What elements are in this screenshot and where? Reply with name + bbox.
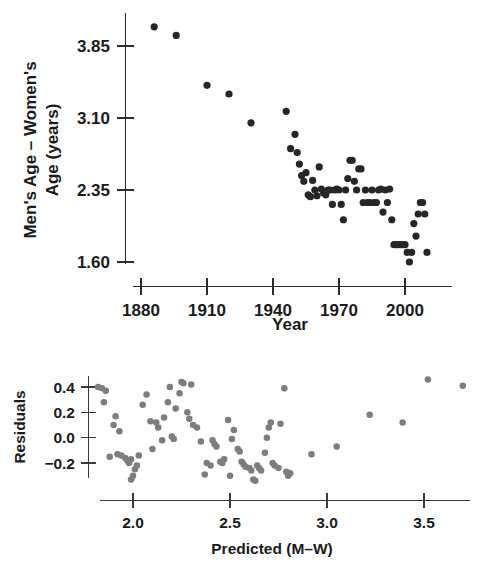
data-point <box>180 380 187 387</box>
x-tick-label: 1970 <box>320 301 358 320</box>
data-point <box>308 451 315 458</box>
data-point <box>170 436 177 443</box>
residual-x-tick-label: 3.5 <box>413 514 435 531</box>
data-point <box>203 82 210 89</box>
data-point <box>176 390 183 397</box>
data-point <box>421 210 428 217</box>
data-point <box>161 414 168 421</box>
y-axis-title: Men's Age – Women's Age (years) <box>21 61 62 238</box>
data-point <box>283 108 290 115</box>
x-tick-label: 1880 <box>122 301 160 320</box>
y-tick-label: 3.85 <box>77 37 110 56</box>
data-point <box>139 401 146 408</box>
data-point <box>406 258 413 265</box>
data-point <box>229 436 236 443</box>
data-point <box>388 216 395 223</box>
data-point <box>103 388 110 395</box>
data-point <box>460 382 467 389</box>
age-difference-scatterplot-panel: 3.853.102.351.60 18801910194019702000 Me… <box>0 0 480 350</box>
data-point <box>106 453 113 460</box>
data-point <box>147 418 154 425</box>
data-point <box>130 472 137 479</box>
data-point <box>151 23 158 30</box>
data-point <box>294 149 301 156</box>
data-point <box>313 192 320 199</box>
data-point <box>225 417 232 424</box>
data-point <box>419 199 426 206</box>
data-point <box>373 199 380 206</box>
data-point <box>134 462 141 469</box>
data-point <box>307 193 314 200</box>
data-point <box>366 412 373 419</box>
data-point <box>338 201 345 208</box>
data-point <box>296 160 303 167</box>
data-point <box>349 157 356 164</box>
data-point <box>159 437 166 444</box>
residual-scatterplot-panel: 0.40.20.0−0.2 2.02.53.03.5 Residuals Pre… <box>0 350 480 581</box>
data-point <box>167 384 174 391</box>
residual-x-tick-labels: 2.02.53.03.5 <box>122 514 435 531</box>
data-point <box>258 467 265 474</box>
y-tick-labels: 3.853.102.351.60 <box>77 37 110 272</box>
residual-plot-svg: 0.40.20.0−0.2 2.02.53.03.5 Residuals Pre… <box>0 350 480 581</box>
data-point <box>300 178 307 185</box>
data-point <box>425 376 432 383</box>
data-point <box>213 443 220 450</box>
data-point <box>281 385 288 392</box>
data-point <box>408 249 415 256</box>
data-point <box>231 427 238 434</box>
data-point <box>262 450 269 457</box>
figure-container: 3.853.102.351.60 18801910194019702000 Me… <box>0 0 480 581</box>
data-point <box>221 456 228 463</box>
data-point <box>275 465 282 472</box>
data-point <box>329 201 336 208</box>
data-point <box>155 424 162 431</box>
residual-y-tick-label: 0.0 <box>53 429 75 446</box>
data-point <box>353 186 360 193</box>
x-axis-title: Year <box>272 315 308 334</box>
data-point <box>267 419 274 426</box>
data-point <box>247 119 254 126</box>
data-point <box>202 471 209 478</box>
data-point <box>399 419 406 426</box>
y-axis-title-line2: Age (years) <box>43 104 62 197</box>
data-point <box>116 428 123 435</box>
residual-y-tick-label: −0.2 <box>44 455 75 472</box>
residual-y-tick-labels: 0.40.20.0−0.2 <box>44 379 75 472</box>
residual-x-tick-label: 3.0 <box>316 514 338 531</box>
data-point <box>248 467 255 474</box>
data-point <box>379 208 386 215</box>
x-tick-label: 1910 <box>188 301 226 320</box>
data-point <box>333 443 340 450</box>
data-point <box>386 185 393 192</box>
data-point <box>236 448 243 455</box>
data-point <box>291 131 298 138</box>
data-point <box>173 32 180 39</box>
residual-y-axis-title: Residuals <box>11 390 28 463</box>
data-point <box>252 477 259 484</box>
data-point <box>198 438 205 445</box>
residual-x-tick-label: 2.0 <box>122 514 144 531</box>
data-point <box>227 472 234 479</box>
age-difference-plot-svg: 3.853.102.351.60 18801910194019702000 Me… <box>0 0 480 350</box>
data-point <box>423 249 430 256</box>
residual-x-tick-label: 2.5 <box>219 514 241 531</box>
data-point <box>110 422 117 429</box>
data-point <box>165 399 172 406</box>
y-axis-title-line1: Men's Age – Women's <box>21 61 40 238</box>
data-point <box>335 186 342 193</box>
residual-x-axis-title: Predicted (M–W) <box>211 540 332 557</box>
x-tick-label: 2000 <box>386 301 424 320</box>
y-tick-label: 1.60 <box>77 253 110 272</box>
data-point <box>384 199 391 206</box>
y-tick-label: 2.35 <box>77 181 110 200</box>
data-point <box>287 145 294 152</box>
data-point <box>368 186 375 193</box>
y-tick-label: 3.10 <box>77 109 110 128</box>
data-point <box>340 216 347 223</box>
data-point <box>415 210 422 217</box>
data-point <box>342 186 349 193</box>
data-point <box>344 175 351 182</box>
data-point <box>362 186 369 193</box>
data-point <box>112 413 119 420</box>
